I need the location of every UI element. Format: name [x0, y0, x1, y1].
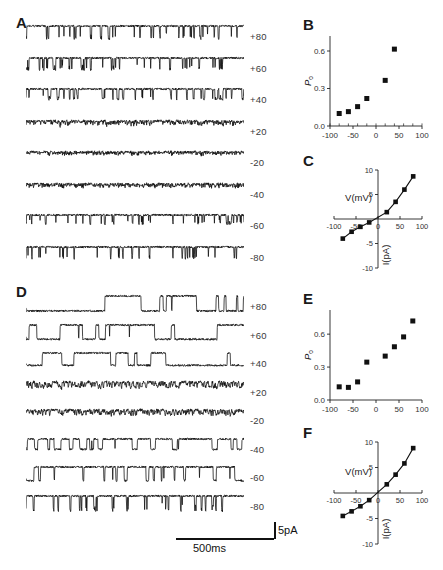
scale-bar-horizontal-label: 500ms — [193, 542, 226, 554]
data-point — [402, 187, 407, 192]
trace-row — [26, 288, 244, 318]
data-point — [346, 109, 351, 114]
y-axis-title: I(pA) — [380, 245, 391, 266]
data-point — [411, 446, 416, 451]
trace-row — [26, 18, 244, 48]
y-tick-label: -5 — [366, 514, 373, 523]
trace-voltage-label: -20 — [250, 415, 264, 426]
scale-bar-vertical-label: 5pA — [278, 524, 298, 536]
y-tick-label: 0.3 — [314, 84, 326, 93]
trace-voltage-label: -80 — [250, 501, 264, 512]
x-tick-label: 50 — [396, 222, 404, 231]
data-point — [364, 96, 369, 101]
trace-row — [26, 431, 244, 461]
data-point — [383, 78, 388, 83]
trace-row — [26, 144, 244, 174]
x-tick-label: 50 — [396, 496, 404, 505]
trace-row — [26, 176, 244, 206]
x-tick-label: -50 — [347, 131, 359, 140]
trace-row — [26, 239, 244, 269]
x-tick-label: 100 — [416, 222, 429, 231]
y-axis-title: I(pA) — [380, 519, 391, 540]
trace-row — [26, 317, 244, 347]
trace-voltage-label: -20 — [250, 157, 264, 168]
x-axis-title: V(mV) — [345, 466, 372, 477]
trace-voltage-label: -40 — [250, 189, 264, 200]
trace-row — [26, 113, 244, 143]
y-tick-label: -10 — [362, 264, 373, 273]
trace-row — [26, 374, 244, 404]
panel-b-chart: 0.00.30.6-100-50050100Po — [300, 26, 430, 146]
x-tick-label: 0 — [374, 405, 379, 414]
trace-voltage-label: -60 — [250, 472, 264, 483]
trace-voltage-label: -40 — [250, 444, 264, 455]
x-tick-label: 100 — [415, 131, 429, 140]
trace-row — [26, 345, 244, 375]
trace-voltage-label: +20 — [250, 387, 267, 398]
data-point — [337, 384, 342, 389]
trace-voltage-label: -80 — [250, 252, 264, 263]
trace-voltage-label: +40 — [250, 94, 267, 105]
scale-bar-horizontal-line — [176, 538, 274, 540]
data-point — [392, 344, 397, 349]
data-point — [410, 318, 415, 323]
data-point — [358, 225, 363, 230]
trace-row — [26, 81, 244, 111]
data-point — [402, 461, 407, 466]
x-tick-label: -100 — [326, 496, 341, 505]
x-axis-title: V(mV) — [345, 192, 372, 203]
y-tick-label: -5 — [366, 239, 373, 248]
trace-voltage-label: +60 — [250, 330, 267, 341]
x-tick-label: 0 — [376, 222, 380, 231]
data-point — [383, 354, 388, 359]
figure-canvas: A +80+60+40+20-20-40-60-80 D +80+60+40+2… — [0, 0, 443, 570]
x-tick-label: 50 — [395, 405, 404, 414]
data-point — [337, 111, 342, 116]
y-tick-label: -10 — [362, 540, 373, 549]
data-point — [355, 104, 360, 109]
trace-row — [26, 50, 244, 80]
panel-c-chart: -10-5510-100-50050100V(mV)I(pA) — [300, 158, 432, 282]
trace-voltage-label: +60 — [250, 63, 267, 74]
y-axis-title: Po — [302, 350, 314, 360]
panel-e-chart: 0.00.30.6-100-50050100Po — [300, 300, 430, 420]
data-point — [355, 379, 360, 384]
x-tick-label: -100 — [322, 405, 339, 414]
data-point — [358, 504, 363, 509]
data-point — [341, 514, 346, 519]
y-tick-label: 10 — [365, 166, 373, 175]
x-tick-label: 100 — [416, 496, 429, 505]
data-point — [385, 482, 390, 487]
data-point — [393, 472, 398, 477]
y-tick-label: 10 — [365, 438, 373, 447]
y-tick-label: 0.0 — [314, 396, 326, 405]
data-point — [364, 360, 369, 365]
trace-row — [26, 207, 244, 237]
scale-bar-group: 5pA 500ms — [176, 524, 306, 566]
y-tick-label: 0.0 — [314, 122, 326, 131]
x-tick-label: 0 — [374, 131, 379, 140]
data-point — [393, 200, 398, 205]
trace-voltage-label: +20 — [250, 126, 267, 137]
panel-f-chart: -10-5510-100-50050100V(mV)I(pA) — [300, 430, 432, 558]
trace-row — [26, 488, 244, 518]
data-point — [385, 210, 390, 215]
trace-voltage-label: -60 — [250, 220, 264, 231]
data-point — [401, 334, 406, 339]
y-tick-label: 0.6 — [314, 47, 326, 56]
x-tick-label: 50 — [395, 131, 404, 140]
trace-row — [26, 459, 244, 489]
data-point — [349, 509, 354, 514]
data-point — [367, 498, 372, 503]
data-point — [346, 385, 351, 390]
trace-voltage-label: +80 — [250, 301, 267, 312]
x-tick-label: 100 — [415, 405, 429, 414]
data-point — [411, 174, 416, 179]
trace-row — [26, 402, 244, 432]
y-axis-title: Po — [302, 76, 314, 86]
trace-voltage-label: +80 — [250, 31, 267, 42]
scale-bar-vertical-line — [274, 522, 276, 539]
x-tick-label: -50 — [347, 405, 359, 414]
x-tick-label: -100 — [322, 131, 339, 140]
trace-voltage-label: +40 — [250, 358, 267, 369]
